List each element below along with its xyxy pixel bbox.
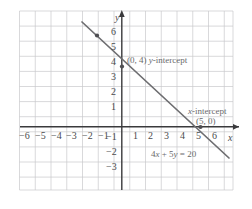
y-tick-neg3: −3 <box>106 162 117 172</box>
y-tick-1: 1 <box>111 102 116 112</box>
y-axis-label: y <box>115 13 119 23</box>
x-tick-5: 5 <box>196 131 201 141</box>
y-tick-neg2: −2 <box>106 147 117 157</box>
coordinate-plane-figure: y x 6 5 4 3 2 1 −1 −2 −3 −6 −5 −4 −3 −2 … <box>0 0 252 209</box>
x-intercept-annotation: x-intercept <box>188 107 226 116</box>
x-tick-neg1: −1 <box>98 131 109 141</box>
y-intercept-suffix: -intercept <box>153 55 187 65</box>
grid-lines <box>20 11 234 190</box>
equation-annotation: 4x + 5y = 20 <box>151 150 196 159</box>
x-intercept-suffix: -intercept <box>192 106 226 116</box>
y-tick-2: 2 <box>111 87 116 97</box>
x-tick-1: 1 <box>133 131 138 141</box>
x-tick-neg2: −2 <box>82 131 93 141</box>
x-tick-neg6: −6 <box>19 131 30 141</box>
line-point-marker <box>95 33 99 37</box>
x-tick-6: 6 <box>212 131 217 141</box>
x-tick-3: 3 <box>164 131 169 141</box>
graph-canvas <box>0 0 252 209</box>
x-tick-neg3: −3 <box>66 131 77 141</box>
y-tick-6: 6 <box>111 27 116 37</box>
x-tick-4: 4 <box>180 131 185 141</box>
y-axis <box>119 10 125 190</box>
y-tick-5: 5 <box>111 42 116 52</box>
x-tick-neg4: −4 <box>51 131 62 141</box>
y-intercept-annotation: (0, 4) y-intercept <box>127 56 187 65</box>
y-tick-3: 3 <box>111 72 116 82</box>
y-intercept-coords: (0, 4) <box>127 55 149 65</box>
y-tick-4: 4 <box>111 57 116 67</box>
x-tick-2: 2 <box>148 131 153 141</box>
x-axis-label: x <box>228 133 232 143</box>
x-axis-arrow <box>233 124 239 130</box>
x-intercept-coords: (5, 0) <box>196 117 216 126</box>
y-intercept-point <box>120 64 124 68</box>
equation-coef-y: + 5 <box>160 149 174 159</box>
equation-rhs: = 20 <box>178 149 197 159</box>
x-tick-neg5: −5 <box>35 131 46 141</box>
